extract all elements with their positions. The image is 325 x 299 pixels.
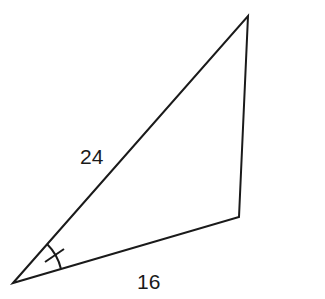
triangle	[13, 16, 248, 283]
angle-tick	[45, 249, 64, 262]
side-label-ac: 16	[137, 270, 160, 293]
side-label-ab: 24	[80, 145, 104, 168]
triangle-diagram: 24 16	[0, 0, 325, 299]
